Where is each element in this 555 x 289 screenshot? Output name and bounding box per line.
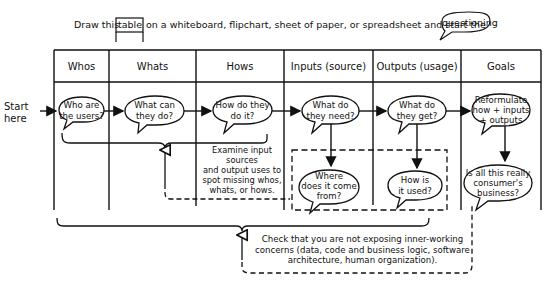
bubble-line: Where <box>299 171 359 181</box>
column-header-whos: Whos <box>54 61 109 72</box>
table-word: table <box>118 19 142 30</box>
note-line: architecture, human organization). <box>255 255 470 266</box>
column-header-inputs: Inputs (source) <box>284 61 373 72</box>
bubble-text-inputs: What do they need? <box>302 100 359 121</box>
bubble-text-goals-followup: Is all this really consumer's business? <box>464 168 532 198</box>
column-header-hows: Hows <box>196 61 284 72</box>
note-line: Check that you are not exposing inner-wo… <box>255 234 470 245</box>
bubble-line: Who are <box>59 100 104 111</box>
bubble-text-whos: Who are the users? <box>59 100 104 121</box>
bubble-line: business? <box>464 188 532 198</box>
bubble-line: How do they <box>213 100 272 111</box>
bubble-line: from? <box>299 191 359 201</box>
column-header-outputs: Outputs (usage) <box>373 61 461 72</box>
check-note: Check that you are not exposing inner-wo… <box>255 234 470 266</box>
bubble-line: it used? <box>388 186 442 197</box>
bubble-line: they do? <box>125 111 184 122</box>
bubble-line: Is all this really <box>464 168 532 178</box>
column-header-whats: Whats <box>109 61 196 72</box>
bubble-text-whats: What can they do? <box>125 100 184 121</box>
bubble-line: Reformulate <box>472 95 530 105</box>
bubble-line: they get? <box>388 111 446 122</box>
brace-lower <box>57 218 429 231</box>
bubble-line: consumer's <box>464 178 532 188</box>
examine-note: Examine input sources and output uses to… <box>197 145 287 195</box>
bubble-line: What do <box>302 100 359 111</box>
bubble-line: + outputs <box>472 115 530 125</box>
bubble-line: does it come <box>299 181 359 191</box>
note-line: spot missing whos, <box>197 175 287 185</box>
column-header-goals: Goals <box>461 61 541 72</box>
bubble-line: What do <box>388 100 446 111</box>
note-line: Examine input sources <box>197 145 287 165</box>
bubble-text-outputs: What do they get? <box>388 100 446 121</box>
start-label-line: Start <box>4 101 28 113</box>
bubble-text-goals: Reformulate how + inputs + outputs <box>472 95 530 125</box>
bubble-line: they need? <box>302 111 359 122</box>
note-line: whats, or hows. <box>197 185 287 195</box>
bubble-line: the users? <box>59 111 104 122</box>
bubble-line: What can <box>125 100 184 111</box>
note-line: and output uses to <box>197 165 287 175</box>
questioning-word: questioning <box>442 17 490 28</box>
instruction-middle: on a whiteboard, flipchart, sheet of pap… <box>146 19 486 30</box>
note-line: concerns (data, code and business logic,… <box>255 245 470 256</box>
bubble-text-inputs-followup: Where does it come from? <box>299 171 359 201</box>
instruction-prefix: Draw this <box>74 19 119 30</box>
instruction-text: Draw this <box>74 19 119 30</box>
bubble-line: how + inputs <box>472 105 530 115</box>
bubble-line: How is <box>388 175 442 186</box>
bubble-text-hows: How do they do it? <box>213 100 272 121</box>
start-here-label: Start here <box>4 101 28 125</box>
bubble-line: do it? <box>213 111 272 122</box>
start-label-line: here <box>4 113 28 125</box>
bubble-text-outputs-followup: How is it used? <box>388 175 442 196</box>
